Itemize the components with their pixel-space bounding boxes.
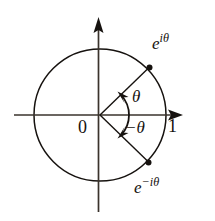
label-e-minus-i-theta-exponent: −iθ — [142, 175, 160, 189]
label-minus-theta: −θ — [125, 119, 145, 136]
label-e-minus-i-theta-base: e — [134, 178, 142, 197]
label-e-i-theta-exponent: iθ — [160, 31, 169, 45]
point-marker-e-i-theta — [147, 65, 153, 71]
label-theta: θ — [132, 88, 140, 105]
label-e-i-theta: eiθ — [152, 32, 169, 52]
point-marker-e-minus-i-theta — [146, 160, 152, 166]
label-unit-point: 1 — [168, 117, 177, 135]
unit-circle-diagram: eiθ e−iθ θ −θ 0 1 — [0, 0, 215, 221]
diagram-canvas — [0, 0, 215, 221]
radius-line-positive-angle — [100, 69, 148, 115]
label-e-i-theta-base: e — [152, 34, 160, 53]
label-origin: 0 — [78, 118, 87, 136]
label-e-minus-i-theta: e−iθ — [134, 176, 159, 196]
